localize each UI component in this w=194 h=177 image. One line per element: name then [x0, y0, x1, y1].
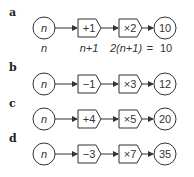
row-label: d — [9, 132, 17, 145]
sub-step-2: 2(n+1) — [109, 42, 142, 54]
sub-result: 10 — [160, 42, 172, 54]
operation-2-label: ×3 — [124, 78, 137, 90]
row-label: b — [9, 61, 17, 74]
operation-1-label: +1 — [83, 22, 96, 34]
machine-row-d: dn−3×735 — [9, 132, 176, 165]
operation-2-label: ×7 — [124, 148, 137, 160]
input-value: n — [41, 22, 47, 34]
row-label: c — [9, 97, 16, 110]
machine-row-a: an+1×210nn+12(n+1)=10 — [9, 6, 176, 54]
operation-1-label: −3 — [83, 148, 96, 160]
operation-2-label: ×5 — [124, 113, 137, 125]
sub-equals: = — [147, 42, 153, 54]
output-value: 35 — [159, 148, 171, 160]
sub-step-1: n+1 — [80, 42, 99, 54]
output-value: 20 — [159, 113, 171, 125]
sub-input: n — [41, 42, 47, 54]
function-machines-diagram: an+1×210nn+12(n+1)=10bn−1×312cn+4×520dn−… — [0, 0, 194, 177]
operation-2-label: ×2 — [124, 22, 137, 34]
row-label: a — [9, 6, 16, 19]
machine-row-c: cn+4×520 — [9, 97, 176, 130]
operation-1-label: +4 — [83, 113, 96, 125]
output-value: 12 — [159, 78, 171, 90]
output-value: 10 — [159, 22, 171, 34]
operation-1-label: −1 — [83, 78, 96, 90]
machine-row-b: bn−1×312 — [9, 61, 176, 95]
input-value: n — [41, 148, 47, 160]
input-value: n — [41, 78, 47, 90]
input-value: n — [41, 113, 47, 125]
